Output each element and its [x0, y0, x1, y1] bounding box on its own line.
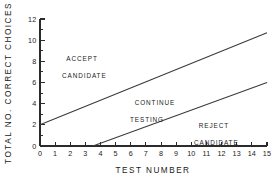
y-tick-label: 4 [32, 99, 36, 108]
x-axis-title: TEST NUMBER [115, 166, 190, 175]
y-axis-tick-labels: 024681012 [28, 15, 36, 151]
y-tick-label: 12 [28, 15, 36, 24]
y-tick-label: 0 [32, 142, 36, 151]
x-tick-label: 5 [114, 149, 118, 158]
region-label-reject-line1: REJECT [199, 122, 229, 129]
y-tick-label: 2 [32, 120, 36, 129]
x-tick-label: 14 [248, 149, 256, 158]
x-tick-label: 1 [53, 149, 57, 158]
x-tick-label: 2 [68, 149, 72, 158]
region-label-reject-line2: CANDIDATE [188, 139, 239, 148]
region-label-continue-line1: CONTINUE [135, 99, 176, 106]
x-tick-label: 3 [83, 149, 87, 158]
region-label-accept-line1: ACCEPT [66, 55, 97, 62]
y-axis-title: TOTAL NO. CORRECT CHOICES [4, 2, 13, 164]
region-label-continue-line2: TESTING [124, 116, 175, 125]
x-tick-label: 8 [159, 149, 163, 158]
region-label-accept-line2: CANDIDATE [56, 72, 107, 81]
x-tick-label: 4 [98, 149, 102, 158]
x-tick-label: 0 [38, 149, 42, 158]
boundary-line-reject-boundary [93, 83, 267, 147]
y-tick-label: 8 [32, 57, 36, 66]
x-tick-label: 7 [144, 149, 148, 158]
x-tick-label: 15 [263, 149, 271, 158]
x-tick-label: 9 [174, 149, 178, 158]
region-label-accept: ACCEPT CANDIDATE [56, 46, 107, 97]
chart-container: 024681012 0123456789101112131415 TEST NU… [0, 0, 277, 181]
x-tick-label: 6 [129, 149, 133, 158]
y-tick-label: 10 [28, 36, 36, 45]
region-label-reject: REJECT CANDIDATE [188, 113, 239, 164]
region-label-continue: CONTINUE TESTING [124, 90, 175, 141]
y-tick-label: 6 [32, 78, 36, 87]
